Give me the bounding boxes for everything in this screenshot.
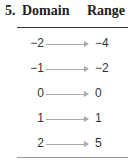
mapping-row: 2 5 (0, 136, 128, 152)
mapping-row: 0 0 (0, 86, 128, 102)
range-value: −4 (95, 36, 109, 50)
arrow-right-icon (46, 69, 87, 70)
domain-value: 2 (37, 136, 44, 150)
range-header: Range (87, 3, 125, 19)
arrow-right-icon (46, 144, 87, 145)
range-value: 1 (95, 111, 102, 125)
arrow-right-icon (46, 119, 87, 120)
domain-value: 1 (37, 111, 44, 125)
arrow-right-icon (46, 44, 87, 45)
domain-value: −2 (30, 36, 44, 50)
range-value: −2 (95, 61, 109, 75)
header-divider (17, 27, 128, 28)
domain-header: Domain (22, 3, 69, 19)
mapping-row: −1 −2 (0, 61, 128, 77)
range-value: 0 (95, 86, 102, 100)
mapping-row: 1 1 (0, 111, 128, 127)
domain-value: −1 (30, 61, 44, 75)
domain-value: 0 (37, 86, 44, 100)
problem-number: 5. (5, 3, 16, 19)
mapping-row: −2 −4 (0, 36, 128, 52)
range-value: 5 (95, 136, 102, 150)
mapping-header: 5. Domain Range (5, 3, 126, 23)
footer-divider (17, 157, 128, 158)
arrow-right-icon (46, 94, 87, 95)
